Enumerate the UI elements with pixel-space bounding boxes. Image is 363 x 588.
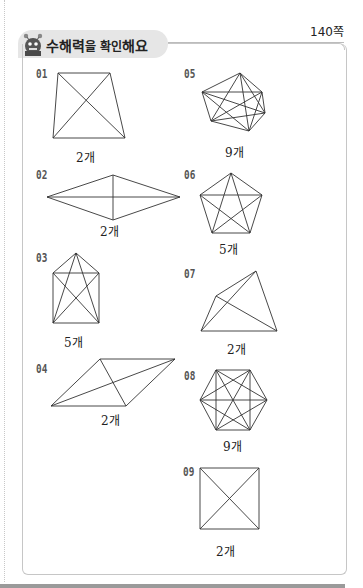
figure-pentagon-house: [53, 253, 99, 323]
figure-parallelogram: [51, 359, 175, 406]
geometry-figures: [0, 0, 363, 588]
figure-square: [200, 468, 259, 529]
figure-irregular-hexagon: [202, 73, 265, 131]
figure-rhombus: [47, 175, 180, 220]
page-bottom-bar: [0, 584, 345, 588]
figure-regular-pentagon: [200, 173, 262, 233]
figure-trapezoid: [53, 73, 125, 138]
figure-irregular-quadrilateral: [201, 271, 277, 331]
figure-regular-hexagon: [200, 370, 267, 430]
